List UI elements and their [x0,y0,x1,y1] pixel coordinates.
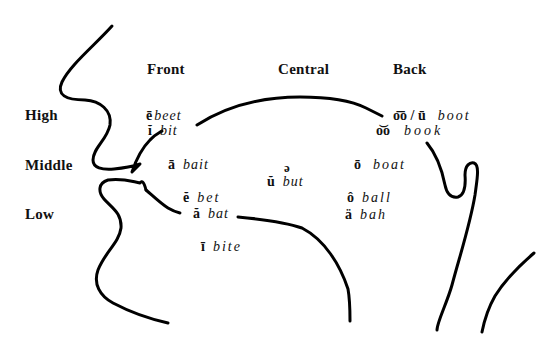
vowel-beet: ēbeet [146,108,182,124]
example-word: book [404,123,443,138]
example-word: bet [197,190,220,205]
vowel-symbol: ŭ [267,174,275,190]
vowel-boot: o͞o / ūboot [393,108,471,124]
vowel-symbol: ä [345,207,352,223]
vowel-symbol: ō [354,157,361,173]
example-word: bat [208,206,229,221]
vowel-chart-diagram: Front Central Back High Middle Low ēbeet… [0,0,557,349]
example-word: but [283,174,304,189]
vowel-symbol: ā [168,157,175,173]
nose-upper-lip-curve [60,26,162,172]
row-heading-middle: Middle [25,157,73,174]
vowel-symbol: ē [146,108,152,124]
example-word: bite [213,239,242,254]
column-heading-back: Back [393,61,427,78]
vowel-symbol: o͞o / ū [393,108,426,124]
vowel-book: o͝obook [376,123,443,139]
column-heading-central: Central [278,61,329,78]
vowel-symbol: ô [347,190,354,206]
example-word: bait [183,157,209,172]
example-word: boat [373,157,406,172]
example-word: boot [438,108,471,123]
vowel-bet: ĕbet [183,190,220,206]
example-word: bit [160,123,178,138]
vowel-symbol: ĭ [148,123,152,139]
tongue-body-curve [238,217,350,321]
row-heading-low: Low [25,206,54,223]
vowel-boat: ōboat [354,157,406,173]
vowel-symbol: ĕ [183,190,189,206]
example-word: ball [362,190,392,205]
vowel-bit: ĭbit [148,123,178,139]
lower-teeth-curve [146,190,180,213]
pharynx-wall-curve [482,253,534,332]
vowel-symbol: ī [201,239,205,255]
vowel-ball: ôball [347,190,392,206]
palate-arc-curve [197,97,382,125]
column-heading-front: Front [147,61,185,78]
row-heading-high: High [25,107,58,124]
vowel-but: ŭbut [267,174,304,190]
vowel-bait: ābait [168,157,209,173]
example-word: beet [154,108,181,123]
vowel-symbol: o͝o [376,123,390,139]
vowel-symbol: ă [193,206,200,222]
velum-uvula-curve [427,143,478,330]
vowel-bah: äbah [345,207,387,223]
vowel-bat: ăbat [193,206,229,222]
example-word: bah [360,207,387,222]
vowel-bite: ībite [201,239,242,255]
